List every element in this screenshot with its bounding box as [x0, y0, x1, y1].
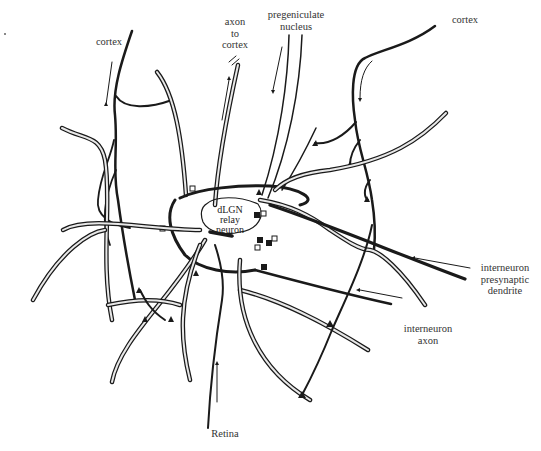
pregeniculate-fibers — [256, 35, 302, 198]
right-tube-fibers — [239, 113, 446, 400]
label-cortex-left: cortex — [79, 36, 139, 48]
label-retina: Retina — [200, 428, 250, 440]
label-dlgn-relay-neuron: dLGN relay neuron — [205, 205, 255, 235]
label-interneuron-presynaptic-dendrite: interneuron presynaptic dendrite — [470, 262, 540, 297]
interneuron-lines — [255, 205, 470, 398]
stray-dot — [4, 33, 6, 35]
diagram-canvas: cortex axon to cortex pregeniculate nucl… — [0, 0, 541, 451]
neuron-circuit-drawing — [0, 0, 541, 451]
label-axon-to-cortex: axon to cortex — [210, 16, 260, 51]
label-pregeniculate-nucleus: pregeniculate nucleus — [256, 9, 336, 32]
cortex-left-fibers — [98, 31, 172, 300]
lower-left-fibers — [33, 223, 223, 428]
label-cortex-right: cortex — [440, 14, 490, 26]
label-interneuron-axon: interneuron axon — [393, 323, 463, 346]
